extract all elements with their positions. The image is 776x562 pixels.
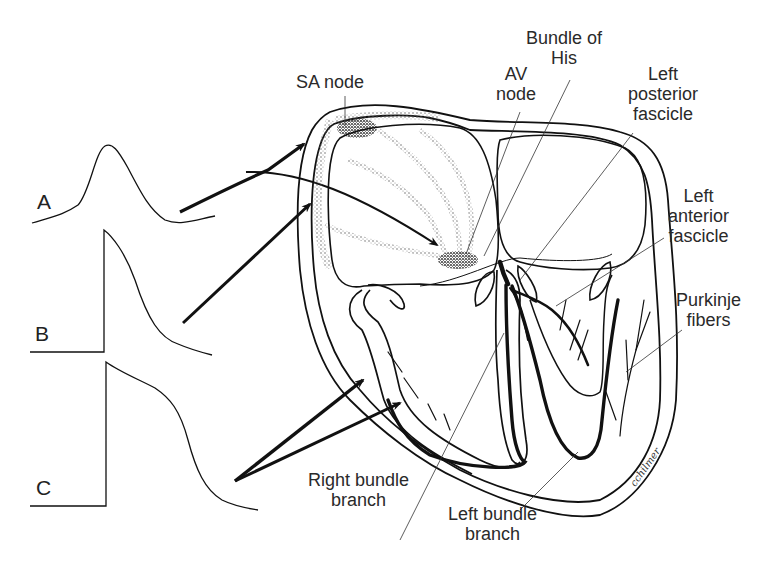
av-node-region — [438, 251, 478, 269]
label-sa-node: SA node — [296, 72, 364, 92]
label-lpf-line1: Left — [628, 64, 698, 84]
label-left-posterior-fascicle: Left posterior fascicle — [628, 64, 698, 124]
bundle-of-his-path — [500, 262, 508, 284]
label-laf-line3: fascicle — [668, 226, 729, 246]
label-lpf-line3: fascicle — [628, 104, 698, 124]
waveform-label-c: C — [36, 476, 51, 500]
waveform-a — [32, 145, 215, 223]
right-bundle-branch-path — [388, 285, 525, 467]
left-atrium — [497, 135, 646, 269]
left-anterior-fascicle-path — [512, 290, 588, 365]
label-purkinje-line2: fibers — [676, 310, 741, 330]
label-purkinje-fibers: Purkinje fibers — [676, 290, 741, 330]
label-rbb-line2: branch — [308, 490, 409, 510]
waveform-label-a: A — [37, 190, 51, 214]
heart-outline — [298, 105, 677, 516]
label-laf-line1: Left — [668, 186, 729, 206]
label-bundle-of-his-line2: His — [526, 48, 602, 68]
label-lpf-line2: posterior — [628, 84, 698, 104]
label-purkinje-line1: Purkinje — [676, 290, 741, 310]
label-lbb-line2: branch — [448, 524, 537, 544]
label-laf-line2: anterior — [668, 206, 729, 226]
arrows — [180, 144, 437, 481]
septum — [496, 270, 527, 464]
label-bundle-of-his-line1: Bundle of — [526, 28, 602, 48]
waveform-b — [30, 230, 212, 355]
bundle-branches — [388, 262, 618, 467]
label-bundle-of-his: Bundle of His — [526, 28, 602, 68]
waveform-c — [30, 362, 258, 510]
label-lbb-line1: Left bundle — [448, 504, 537, 524]
conduction-diagram: A B C SA node AV node Bundle of His Left… — [0, 0, 776, 562]
label-left-anterior-fascicle: Left anterior fascicle — [668, 186, 729, 246]
left-ventricle — [530, 275, 612, 396]
right-ventricle — [350, 285, 520, 474]
label-av-node-line2: node — [496, 84, 536, 104]
waveform-label-b: B — [35, 322, 49, 346]
label-av-node: AV node — [496, 64, 536, 104]
label-right-bundle-branch: Right bundle branch — [308, 470, 409, 510]
label-rbb-line1: Right bundle — [308, 470, 409, 490]
label-left-bundle-branch: Left bundle branch — [448, 504, 537, 544]
